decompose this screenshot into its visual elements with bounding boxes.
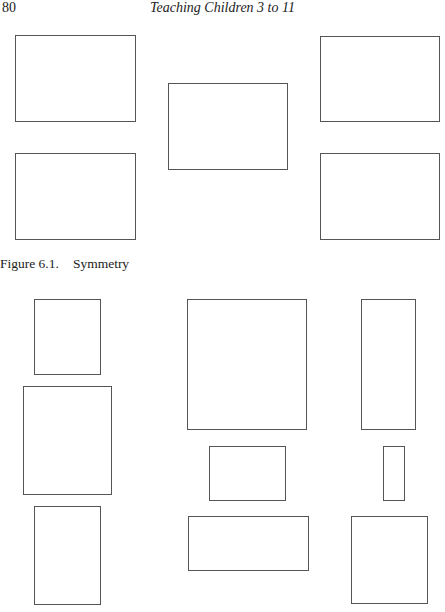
figure-number: Figure 6.1. [0, 256, 59, 271]
bottom-rectangle-8 [383, 446, 405, 501]
bottom-rectangle-2 [23, 386, 112, 495]
top-rectangle-1 [15, 35, 136, 122]
running-head: Teaching Children 3 to 11 [0, 0, 445, 16]
top-rectangle-5 [320, 153, 440, 240]
bottom-rectangle-6 [188, 516, 309, 571]
figure-title: Symmetry [73, 256, 129, 271]
bottom-rectangle-9 [351, 516, 428, 604]
bottom-rectangle-1 [34, 299, 101, 375]
top-rectangle-2 [15, 153, 136, 240]
top-rectangle-3 [168, 83, 288, 170]
bottom-rectangle-3 [34, 506, 101, 605]
bottom-rectangle-4 [187, 299, 307, 430]
top-rectangle-4 [320, 36, 440, 122]
bottom-rectangle-5 [209, 446, 286, 501]
figure-caption: Figure 6.1.Symmetry [0, 256, 129, 272]
bottom-rectangle-7 [361, 299, 416, 430]
